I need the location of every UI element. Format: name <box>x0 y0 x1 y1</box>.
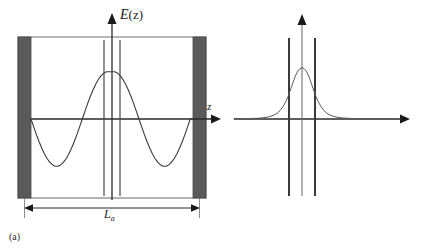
e-axis-label-symbol-a: E <box>120 7 129 22</box>
panel-a-plot <box>0 0 230 248</box>
e-axis-label-arg-a: (z) <box>129 7 143 22</box>
e-axis-arrowhead-a <box>108 13 117 24</box>
z-axis-label-a: z <box>207 100 211 112</box>
panel-caption-a: (a) <box>9 231 20 242</box>
z-axis-arrowhead-a <box>211 115 221 124</box>
cavity-length-label: La <box>104 207 115 223</box>
cavity-length-subscript: a <box>111 214 115 223</box>
e-axis-arrowhead-b <box>298 14 307 25</box>
mirror-left <box>18 37 31 198</box>
mirror-right <box>193 37 206 198</box>
gaussian-mode-curve <box>234 68 400 119</box>
cavity-length-symbol: L <box>104 207 111 221</box>
panel-b-plot <box>230 0 422 248</box>
e-axis-label-a: E(z) <box>120 5 143 23</box>
figure-root: E(z) z La (a) E(z) z (b) <box>0 0 422 248</box>
z-axis-arrowhead-b <box>400 115 410 124</box>
panel-b: E(z) z (b) <box>230 0 422 248</box>
cavity-length-arrowhead-right <box>191 204 200 211</box>
cavity-length-arrowhead-left <box>24 204 33 211</box>
panel-a: E(z) z La (a) <box>0 0 230 248</box>
